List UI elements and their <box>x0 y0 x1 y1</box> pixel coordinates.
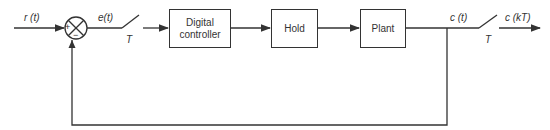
hold-label: Hold <box>284 23 305 35</box>
plus-sign: + <box>65 22 70 32</box>
output-signal-label: c (t) <box>450 12 467 23</box>
digital-controller-block: Digital controller <box>169 9 231 48</box>
controller-label-line2: controller <box>179 29 220 41</box>
hold-block: Hold <box>271 9 318 48</box>
plant-block: Plant <box>360 9 406 48</box>
plant-label: Plant <box>372 23 395 35</box>
sampled-output-label: c (kT) <box>505 12 531 23</box>
output-sampler-switch <box>479 15 497 28</box>
error-sampler-period-label: T <box>126 34 132 45</box>
output-sampler-period-label: T <box>485 34 491 45</box>
error-signal-label: e(t) <box>98 12 113 23</box>
input-signal-label: r (t) <box>24 12 40 23</box>
controller-label-line1: Digital <box>186 17 214 29</box>
error-sampler-switch <box>122 15 139 28</box>
minus-sign: − <box>73 30 78 40</box>
